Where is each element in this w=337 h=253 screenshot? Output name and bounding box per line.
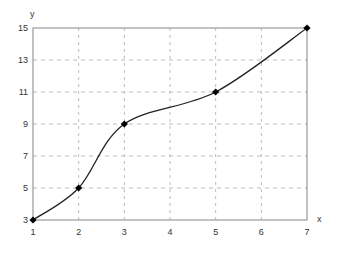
- line-chart: 1234567 3579111315 x y: [0, 0, 337, 253]
- diamond-marker-icon: [29, 216, 36, 223]
- y-tick-label: 3: [23, 215, 28, 225]
- x-tick-label: 6: [259, 227, 264, 237]
- gridlines: [33, 28, 307, 220]
- y-tick-label: 13: [18, 55, 28, 65]
- y-tick-label: 7: [23, 151, 28, 161]
- x-tick-label: 4: [167, 227, 172, 237]
- x-tick-label: 7: [304, 227, 309, 237]
- x-axis-label: x: [317, 214, 322, 224]
- x-tick-label: 3: [122, 227, 127, 237]
- diamond-marker-icon: [212, 88, 219, 95]
- y-axis-label: y: [30, 9, 35, 19]
- y-tick-label: 11: [19, 87, 28, 97]
- x-tick-labels: 1234567: [30, 227, 309, 237]
- x-tick-label: 1: [30, 227, 35, 237]
- y-tick-labels: 3579111315: [18, 23, 28, 225]
- y-tick-label: 5: [23, 183, 28, 193]
- x-tick-label: 5: [213, 227, 218, 237]
- y-tick-label: 15: [18, 23, 28, 33]
- y-tick-label: 9: [23, 119, 28, 129]
- x-tick-label: 2: [76, 227, 81, 237]
